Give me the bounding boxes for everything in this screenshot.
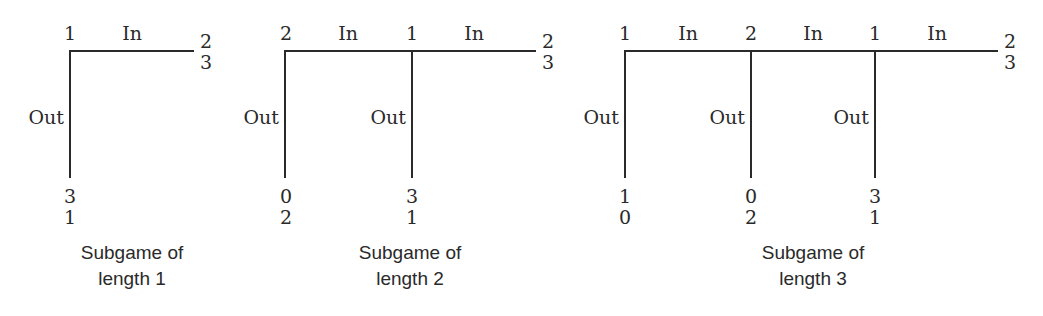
out-label: Out <box>710 108 745 127</box>
out-branch <box>69 50 71 178</box>
game-tree-diagram: 1 In Out 2 3 3 1 Subgame of length 1 2 I… <box>0 0 1043 316</box>
terminal-payoff-p1: 2 <box>542 32 554 51</box>
caption-line-2: length 1 <box>81 266 183 292</box>
in-label: In <box>464 24 484 43</box>
out-payoff-p1: 0 <box>280 187 292 206</box>
in-branch <box>70 50 194 52</box>
out-payoff-p2: 1 <box>869 208 881 227</box>
terminal-payoff-p1: 2 <box>200 32 212 51</box>
in-branch <box>625 50 998 52</box>
out-branch <box>284 50 286 178</box>
out-payoff-p1: 3 <box>869 187 881 206</box>
out-payoff-p2: 1 <box>64 208 76 227</box>
in-label: In <box>122 24 142 43</box>
out-payoff-p1: 3 <box>64 187 76 206</box>
in-label: In <box>927 24 947 43</box>
terminal-payoff-p2: 3 <box>1004 53 1016 72</box>
caption-line-2: length 3 <box>762 266 864 292</box>
out-payoff-p2: 2 <box>745 208 757 227</box>
out-payoff-p1: 1 <box>619 187 631 206</box>
out-branch <box>874 50 876 178</box>
terminal-payoff-p1: 2 <box>1004 32 1016 51</box>
out-label: Out <box>29 108 64 127</box>
out-payoff-p2: 1 <box>406 208 418 227</box>
subgame-caption: Subgame of length 1 <box>81 240 183 292</box>
out-payoff-p2: 2 <box>280 208 292 227</box>
out-payoff-p1: 0 <box>745 187 757 206</box>
subgame-caption: Subgame of length 3 <box>762 240 864 292</box>
out-branch <box>624 50 626 178</box>
caption-line-1: Subgame of <box>81 240 183 266</box>
out-branch <box>411 50 413 178</box>
terminal-payoff-p2: 3 <box>200 53 212 72</box>
out-branch <box>750 50 752 178</box>
out-label: Out <box>371 108 406 127</box>
player-label: 1 <box>64 24 76 43</box>
in-label: In <box>803 24 823 43</box>
out-payoff-p2: 0 <box>619 208 631 227</box>
caption-line-1: Subgame of <box>359 240 461 266</box>
player-label: 1 <box>406 24 418 43</box>
caption-line-1: Subgame of <box>762 240 864 266</box>
player-label: 1 <box>619 24 631 43</box>
terminal-payoff-p2: 3 <box>542 53 554 72</box>
player-label: 2 <box>745 24 757 43</box>
player-label: 2 <box>280 24 292 43</box>
caption-line-2: length 2 <box>359 266 461 292</box>
out-label: Out <box>244 108 279 127</box>
out-label: Out <box>584 108 619 127</box>
out-payoff-p1: 3 <box>406 187 418 206</box>
player-label: 1 <box>869 24 881 43</box>
in-label: In <box>338 24 358 43</box>
in-label: In <box>678 24 698 43</box>
subgame-caption: Subgame of length 2 <box>359 240 461 292</box>
out-label: Out <box>834 108 869 127</box>
